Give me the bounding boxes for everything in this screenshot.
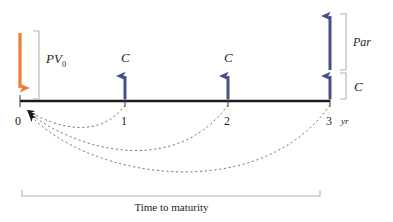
par-label: Par: [353, 36, 371, 48]
tick-label-3: 3: [326, 115, 332, 127]
diagram-canvas: [0, 0, 393, 222]
discount-arcs: [27, 105, 330, 172]
timeline-axis: [20, 95, 330, 107]
pv0-bracket: [33, 31, 39, 99]
pv0-label: PV0: [46, 52, 66, 69]
par-bracket: [340, 14, 346, 70]
measurement-brackets: [33, 14, 346, 99]
coupon-label-t1: C: [121, 51, 130, 64]
maturity-bracket-path: [22, 190, 320, 196]
pv0-label-text: PV: [46, 51, 62, 66]
coupon-label-t2: C: [224, 51, 233, 64]
tick-label-2: 2: [224, 115, 230, 127]
discount-arc-from-t1: [27, 105, 125, 127]
maturity-span-bracket: [22, 190, 320, 196]
bond-cashflow-timeline-diagram: PV0 C C Par C 0 1 2 3 yr Time to maturit…: [0, 0, 393, 222]
coupon-bracket-t3: [340, 73, 346, 99]
time-to-maturity-label: Time to maturity: [0, 202, 343, 213]
tick-label-1: 1: [121, 115, 127, 127]
tick-label-0: 0: [15, 115, 21, 127]
coupon-label-t3: C: [354, 80, 363, 93]
discount-arc-from-t2: [28, 105, 228, 150]
pv0-label-subscript: 0: [62, 60, 66, 69]
cashflow-arrows: [20, 16, 330, 99]
time-unit-label: yr: [341, 117, 349, 126]
